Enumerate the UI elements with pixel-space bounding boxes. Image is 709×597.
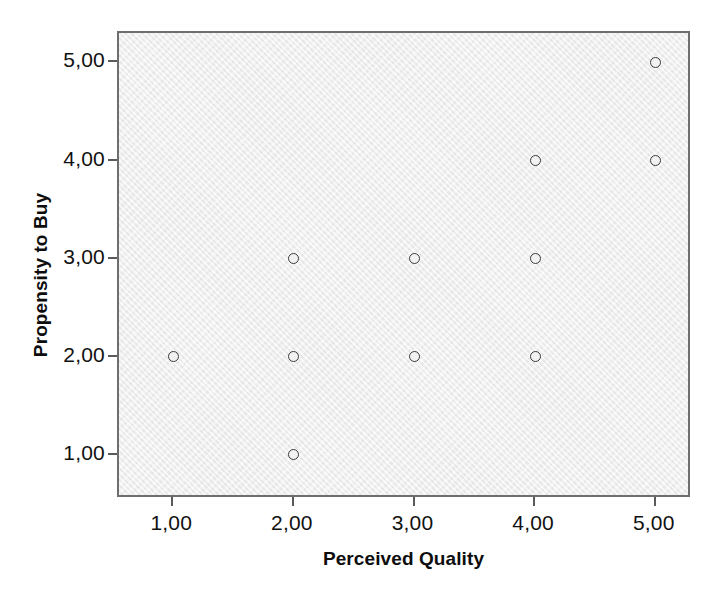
y-axis-tick-label: 3,00 bbox=[15, 246, 105, 267]
x-axis-tick bbox=[533, 497, 535, 506]
x-axis-tick bbox=[654, 497, 656, 506]
data-point bbox=[650, 57, 661, 68]
x-axis-tick bbox=[292, 497, 294, 506]
x-axis-tick bbox=[413, 497, 415, 506]
y-axis-tick-label: 1,00 bbox=[15, 442, 105, 463]
x-axis-tick-label: 2,00 bbox=[247, 512, 337, 533]
data-point bbox=[288, 449, 299, 460]
data-point bbox=[530, 351, 541, 362]
data-point bbox=[530, 253, 541, 264]
data-point bbox=[530, 155, 541, 166]
x-axis-title: Perceived Quality bbox=[117, 548, 690, 570]
y-axis-tick bbox=[108, 453, 117, 455]
x-axis-tick-label: 4,00 bbox=[488, 512, 578, 533]
x-axis-tick-label: 3,00 bbox=[368, 512, 458, 533]
data-point bbox=[288, 253, 299, 264]
y-axis-tick bbox=[108, 159, 117, 161]
y-axis-tick-label: 2,00 bbox=[15, 344, 105, 365]
x-axis-tick bbox=[171, 497, 173, 506]
x-axis-tick-label: 5,00 bbox=[609, 512, 699, 533]
y-axis-tick-label: 5,00 bbox=[15, 49, 105, 70]
plot-area bbox=[117, 31, 690, 497]
data-point bbox=[409, 351, 420, 362]
data-point bbox=[288, 351, 299, 362]
data-points-layer bbox=[119, 33, 688, 495]
data-point bbox=[409, 253, 420, 264]
y-axis-title: Propensity to Buy bbox=[30, 135, 52, 415]
y-axis-tick bbox=[108, 257, 117, 259]
y-axis-tick-label: 4,00 bbox=[15, 148, 105, 169]
scatter-plot-figure: Propensity to Buy 1,002,003,004,005,00 1… bbox=[0, 0, 709, 597]
x-axis-tick-label: 1,00 bbox=[126, 512, 216, 533]
data-point bbox=[168, 351, 179, 362]
y-axis-tick bbox=[108, 355, 117, 357]
y-axis-tick bbox=[108, 60, 117, 62]
data-point bbox=[650, 155, 661, 166]
